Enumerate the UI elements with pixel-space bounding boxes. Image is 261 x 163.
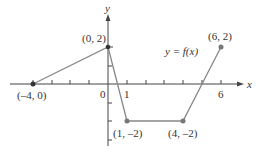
x-axis-arrow-icon	[237, 82, 244, 87]
label-point-neg4-0: (–4, 0)	[17, 89, 47, 102]
tick-label-0: 0	[100, 88, 106, 100]
point-4-neg2	[181, 119, 186, 124]
y-axis-arrow-icon	[106, 14, 111, 21]
point-neg4-0	[31, 82, 36, 87]
label-point-4-neg2: (4, –2)	[168, 127, 198, 140]
y-axis-label: y	[104, 2, 110, 14]
label-point-1-neg2: (1, –2)	[113, 127, 143, 140]
point-1-neg2	[125, 119, 130, 124]
x-ticks	[33, 80, 221, 84]
tick-label-1: 1	[124, 88, 130, 100]
label-point-6-2: (6, 2)	[208, 30, 232, 43]
point-6-2	[219, 45, 224, 50]
function-graph: y x (0, 2) (–4, 0) (1, –2) (4, –2) (6, 2…	[0, 0, 261, 163]
point-0-2	[106, 45, 111, 50]
x-axis-label: x	[246, 78, 252, 90]
function-label: y = f(x)	[164, 45, 198, 58]
label-point-0-2: (0, 2)	[82, 32, 106, 45]
tick-label-6: 6	[218, 88, 224, 100]
